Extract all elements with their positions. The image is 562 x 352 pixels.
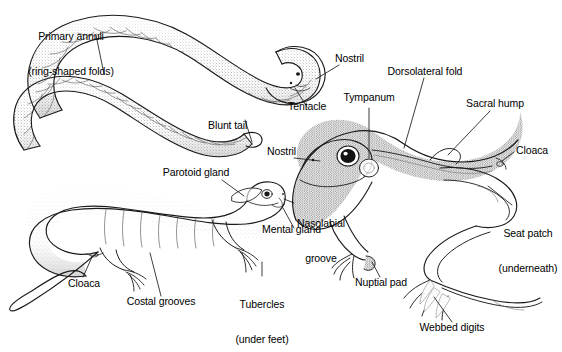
label-tubercles: Tubercles (under feet) xyxy=(224,276,300,352)
label-cloaca-salamander: Cloaca xyxy=(58,278,110,290)
label-blunt-tail: Blunt tail xyxy=(208,120,247,132)
label-seat-patch-line2: (underneath) xyxy=(494,263,562,275)
label-parotoid-gland: Parotoid gland xyxy=(156,167,236,179)
amphibian-anatomy-figure: Primary annuli (ring-shaped folds) Blunt… xyxy=(0,0,562,352)
label-dorsolateral-fold: Dorsolateral fold xyxy=(382,66,468,78)
label-nasolabial-line2: groove xyxy=(292,253,350,265)
label-primary-annuli-line2: (ring-shaped folds) xyxy=(6,66,136,78)
label-nostril-caecilian: Nostril xyxy=(335,53,364,65)
label-cloaca-frog: Cloaca xyxy=(516,145,548,157)
label-tentacle: Tentacle xyxy=(288,101,326,113)
label-webbed-digits: Webbed digits xyxy=(412,322,492,334)
label-tubercles-line1: Tubercles xyxy=(224,299,300,311)
label-nostril-frog: Nostril xyxy=(248,146,296,158)
label-primary-annuli-line1: Primary annuli xyxy=(6,31,136,43)
label-seat-patch: Seat patch (underneath) xyxy=(494,205,562,297)
label-nuptial-pad: Nuptial pad xyxy=(348,277,414,289)
label-seat-patch-line1: Seat patch xyxy=(494,228,562,240)
label-costal-grooves: Costal grooves xyxy=(119,296,203,308)
label-nasolabial-groove: Nasolabial groove xyxy=(292,195,350,287)
label-sacral-hump: Sacral hump xyxy=(460,98,530,110)
label-primary-annuli: Primary annuli (ring-shaped folds) xyxy=(6,8,136,100)
label-tubercles-line2: (under feet) xyxy=(224,334,300,346)
label-mental-gland: Mental gland xyxy=(262,224,321,236)
label-tympanum: Tympanum xyxy=(338,92,400,104)
